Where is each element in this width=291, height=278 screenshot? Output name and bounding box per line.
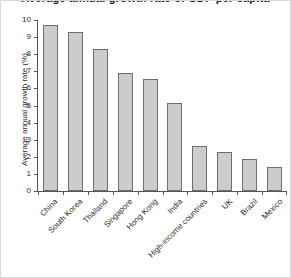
x-tick-mark <box>237 191 238 195</box>
bar <box>68 32 83 191</box>
y-tick-label: 7 <box>27 66 31 75</box>
y-tick-mark <box>34 123 38 124</box>
x-tick-mark <box>163 191 164 195</box>
bar <box>93 49 108 191</box>
x-tick-mark <box>212 191 213 195</box>
x-tick-label: Brazil <box>238 197 259 218</box>
y-tick-mark <box>34 174 38 175</box>
bar <box>118 73 133 191</box>
y-tick-mark <box>34 37 38 38</box>
x-tick-label: UK <box>220 197 234 211</box>
y-tick-label: 4 <box>27 118 31 127</box>
bar <box>43 25 58 191</box>
x-tick-mark <box>113 191 114 195</box>
y-tick-label: 0 <box>27 186 31 195</box>
x-tick-mark <box>138 191 139 195</box>
plot-area: 012345678910 ChinaSouth KoreaThailandSin… <box>38 20 287 191</box>
y-tick-mark <box>34 88 38 89</box>
y-tick-mark <box>34 71 38 72</box>
y-tick-label: 9 <box>27 32 31 41</box>
y-tick-label: 2 <box>27 152 31 161</box>
bar <box>267 167 282 191</box>
y-tick-label: 8 <box>27 49 31 58</box>
x-tick-label: China <box>39 197 60 218</box>
y-tick-label: 5 <box>27 101 31 110</box>
y-tick-mark <box>34 106 38 107</box>
bar <box>192 146 207 191</box>
x-tick-mark <box>38 191 39 195</box>
x-tick-mark <box>63 191 64 195</box>
y-tick-mark <box>34 20 38 21</box>
y-tick-mark <box>34 157 38 158</box>
y-tick-label: 6 <box>27 83 31 92</box>
chart-figure: Average annual growth rate of GDP per ca… <box>0 0 291 278</box>
y-tick-label: 3 <box>27 135 31 144</box>
x-tick-mark <box>286 191 287 195</box>
y-tick-mark <box>34 54 38 55</box>
bar <box>167 103 182 191</box>
bar <box>217 152 232 191</box>
y-tick-label: 1 <box>27 169 31 178</box>
x-tick-mark <box>88 191 89 195</box>
x-tick-label: India <box>166 197 185 216</box>
x-tick-mark <box>187 191 188 195</box>
bar <box>242 159 257 191</box>
x-tick-mark <box>262 191 263 195</box>
x-tick-label: Mexico <box>260 197 284 221</box>
y-tick-mark <box>34 140 38 141</box>
bar <box>143 79 158 191</box>
y-tick-label: 10 <box>22 15 31 24</box>
chart-title: Average annual growth rate of GDP per ca… <box>1 0 290 5</box>
